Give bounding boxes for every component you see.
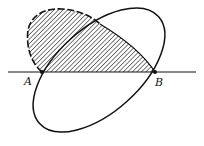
label-b: B: [154, 76, 163, 89]
label-a: A: [23, 75, 32, 88]
point-a: [40, 70, 44, 74]
point-b: [153, 70, 157, 74]
diagram-canvas: A B: [0, 0, 204, 146]
